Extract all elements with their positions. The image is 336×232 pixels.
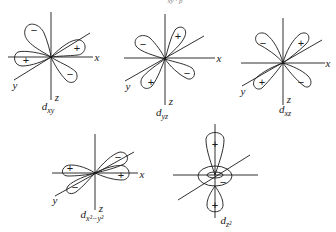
x-axis-label: x bbox=[216, 52, 222, 64]
sign-lower-left: + bbox=[259, 76, 265, 88]
z-axis-label: z bbox=[168, 95, 174, 107]
sign-upper-right: + bbox=[175, 30, 181, 42]
orbital-dxz: − + + − x y z dxz bbox=[240, 18, 331, 118]
y-axis-label: y bbox=[125, 80, 131, 92]
lobe-upper-left bbox=[25, 24, 51, 57]
sign-upper-right: + bbox=[298, 37, 304, 49]
sign-upper-right: + bbox=[74, 42, 80, 54]
sign-right: + bbox=[118, 169, 124, 181]
sign-top: + bbox=[212, 138, 218, 150]
y-axis-label: y bbox=[240, 85, 246, 97]
d-orbitals-diagram: xy · p − + + − x y z dxy − + bbox=[0, 0, 336, 232]
sign-bottom: + bbox=[212, 199, 218, 211]
y-axis bbox=[178, 155, 250, 200]
sign-lower-left: + bbox=[148, 76, 154, 88]
x-axis-label: x bbox=[139, 168, 145, 180]
x-axis-label: x bbox=[94, 51, 100, 63]
sign-lower-right: − bbox=[298, 76, 304, 88]
z-axis-label: z bbox=[286, 93, 292, 105]
sign-lower-right: − bbox=[184, 67, 190, 79]
sign-upper-left: − bbox=[140, 38, 146, 50]
orbital-dz2: + − + dz² bbox=[173, 124, 258, 229]
y-axis-label: y bbox=[52, 194, 58, 206]
sign-torus: − bbox=[220, 176, 226, 188]
orbital-dx2-y2: + − − + x y z dx²−y² bbox=[52, 134, 145, 223]
orbital-dyz: − + + − x y z dyz bbox=[124, 14, 222, 121]
sign-left: + bbox=[23, 54, 29, 66]
caption-dxy: dxy bbox=[42, 100, 55, 115]
lobe-upper-right bbox=[283, 33, 309, 63]
sign-left: + bbox=[67, 162, 73, 174]
sign-lower-left: − bbox=[72, 181, 78, 193]
orbital-dxy: − + + − x y z dxy bbox=[8, 12, 100, 115]
sign-upper-left: − bbox=[31, 24, 37, 36]
z-axis-label: z bbox=[54, 91, 60, 103]
header-fragment: xy · p bbox=[167, 0, 183, 5]
caption-dyz: dyz bbox=[156, 106, 169, 121]
caption-dz2: dz² bbox=[220, 214, 232, 229]
sign-upper-left: − bbox=[260, 37, 266, 49]
caption-dxz: dxz bbox=[279, 103, 292, 118]
y-axis-label: y bbox=[12, 79, 18, 91]
sign-upper-right: − bbox=[115, 151, 121, 163]
x-axis-label: x bbox=[325, 57, 331, 69]
sign-lower-right: − bbox=[67, 68, 73, 80]
z-axis-label: z bbox=[98, 202, 104, 214]
